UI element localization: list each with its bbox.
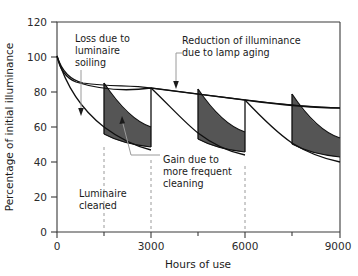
x-tick-9000: 9000 [325,240,352,252]
y-axis-ticks [51,22,57,232]
y-tick-60: 60 [34,121,47,133]
y-tick-120: 120 [27,16,47,28]
x-tick-0: 0 [54,240,61,252]
gain-line2: more frequent [163,166,232,177]
gain-line3: cleaning [163,178,204,189]
y-tick-40: 40 [34,156,47,168]
x-axis-title: Hours of use [165,258,231,270]
y-tick-0: 0 [40,226,47,238]
y-tick-80: 80 [34,86,47,98]
loss-soiling-line3: soiling [75,57,106,68]
x-tick-6000: 6000 [232,240,259,252]
chart-svg: 120 100 80 60 40 20 0 0 3000 6000 9000 H… [0,0,358,276]
y-axis-tick-labels: 120 100 80 60 40 20 0 [27,16,47,238]
y-tick-100: 100 [27,51,47,63]
x-axis-tick-labels: 0 3000 6000 9000 [54,240,352,252]
lamp-aging-arrowhead [173,81,179,89]
annotation-lamp-aging: Reduction of illuminance due to lamp agi… [173,35,301,89]
loss-soiling-arrowhead [78,108,84,116]
clean-line1: Luminaire [79,188,127,199]
loss-soiling-line2: luminaire [75,45,120,56]
y-axis-title: Percentage of initial illuminance [3,43,15,212]
loss-soiling-line1: Loss due to [75,33,130,44]
annotation-loss-soiling: Loss due to luminaire soiling [75,33,130,116]
annotation-luminaire-cleaned: Luminaire cleaned [79,188,127,211]
illuminance-maintenance-chart: 120 100 80 60 40 20 0 0 3000 6000 9000 H… [0,0,358,276]
lamp-aging-line1: Reduction of illuminance [182,35,301,46]
x-tick-3000: 3000 [138,240,165,252]
lamp-aging-line2: due to lamp aging [182,47,270,58]
clean-line2: cleaned [79,200,117,211]
x-axis-ticks [57,232,340,238]
gain-line1: Gain due to [163,154,219,165]
y-tick-20: 20 [34,191,47,203]
